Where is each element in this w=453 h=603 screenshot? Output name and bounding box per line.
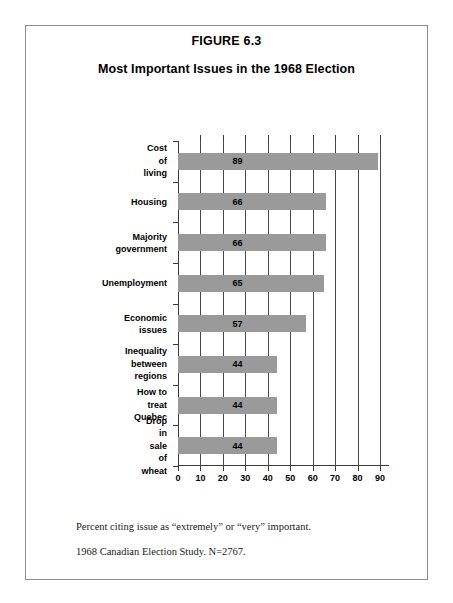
x-axis-tick-50 <box>290 466 291 471</box>
y-axis-tick <box>173 263 178 264</box>
gridline-20 <box>223 141 224 466</box>
x-axis-label-90: 90 <box>375 473 385 483</box>
bar-value-label: 66 <box>232 238 242 248</box>
y-axis-tick <box>173 425 178 426</box>
x-axis-label-30: 30 <box>240 473 250 483</box>
footnote: Percent citing issue as “extremely” or “… <box>76 521 396 532</box>
category-label: Cost of living <box>144 143 168 181</box>
bar-value-label: 44 <box>232 400 242 410</box>
bar <box>178 437 277 454</box>
y-axis-tick <box>173 385 178 386</box>
x-axis-top-tick-10 <box>200 135 201 141</box>
bar <box>178 234 326 251</box>
x-axis-top-tick-60 <box>313 135 314 141</box>
bar-value-label: 89 <box>232 156 242 166</box>
gridline-70 <box>335 141 336 466</box>
x-axis-tick-60 <box>313 466 314 471</box>
x-axis-tick-0 <box>178 466 179 471</box>
y-axis-tick <box>173 182 178 183</box>
x-axis-label-50: 50 <box>285 473 295 483</box>
bar <box>178 275 324 292</box>
page-title: Most Important Issues in the 1968 Electi… <box>26 62 427 76</box>
figure-frame: FIGURE 6.3 Most Important Issues in the … <box>25 25 428 580</box>
bar-value-label: 66 <box>232 197 242 207</box>
title-block: FIGURE 6.3 Most Important Issues in the … <box>26 34 427 76</box>
category-label: Economic issues <box>124 311 167 336</box>
x-axis-tick-90 <box>380 466 381 471</box>
bar-value-label: 65 <box>232 278 242 288</box>
x-axis-label-80: 80 <box>353 473 363 483</box>
x-axis-tick-30 <box>245 466 246 471</box>
category-label: Inequality between regions <box>125 346 167 384</box>
gridline-60 <box>313 141 314 466</box>
x-axis-label-10: 10 <box>195 473 205 483</box>
y-axis-line <box>178 141 179 466</box>
footnotes: Percent citing issue as “extremely” or “… <box>76 521 396 557</box>
bar-value-label: 57 <box>232 319 242 329</box>
bar-value-label: 44 <box>232 441 242 451</box>
bar <box>178 397 277 414</box>
gridline-90 <box>380 141 381 466</box>
x-axis-tick-70 <box>335 466 336 471</box>
y-axis-tick <box>173 344 178 345</box>
y-axis-tick <box>173 222 178 223</box>
x-axis-tick-20 <box>223 466 224 471</box>
gridline-50 <box>290 141 291 466</box>
bar <box>178 153 378 170</box>
x-axis-tick-80 <box>358 466 359 471</box>
x-axis-label-0: 0 <box>175 473 180 483</box>
category-label: Drop in sale of wheat <box>141 414 167 477</box>
x-axis-line <box>178 465 380 466</box>
category-label: Housing <box>131 196 167 209</box>
gridline-80 <box>358 141 359 466</box>
x-axis-top-tick-90 <box>380 135 381 141</box>
category-label: Unemployment <box>102 277 167 290</box>
bar <box>178 193 326 210</box>
y-axis-tick <box>173 141 178 142</box>
bar-chart-plot-area: 89Cost of living66Housing66Majority gove… <box>178 141 380 466</box>
x-axis-label-20: 20 <box>218 473 228 483</box>
bar-value-label: 44 <box>232 359 242 369</box>
x-axis-top-tick-40 <box>268 135 269 141</box>
x-axis-tick-10 <box>200 466 201 471</box>
x-axis-label-70: 70 <box>330 473 340 483</box>
x-axis-top-tick-20 <box>223 135 224 141</box>
x-axis-tick-40 <box>268 466 269 471</box>
x-axis-label-40: 40 <box>263 473 273 483</box>
x-axis-line-extension <box>380 465 389 466</box>
y-axis-tick <box>173 304 178 305</box>
bar <box>178 356 277 373</box>
x-axis-top-tick-70 <box>335 135 336 141</box>
x-axis-top-tick-80 <box>358 135 359 141</box>
gridline-10 <box>200 141 201 466</box>
figure-number: FIGURE 6.3 <box>26 34 427 48</box>
footnote: 1968 Canadian Election Study. N=2767. <box>76 546 396 557</box>
x-axis-top-tick-50 <box>290 135 291 141</box>
gridline-40 <box>268 141 269 466</box>
x-axis-label-60: 60 <box>308 473 318 483</box>
category-label: Majority government <box>115 230 167 255</box>
gridline-30 <box>245 141 246 466</box>
x-axis-top-tick-30 <box>245 135 246 141</box>
